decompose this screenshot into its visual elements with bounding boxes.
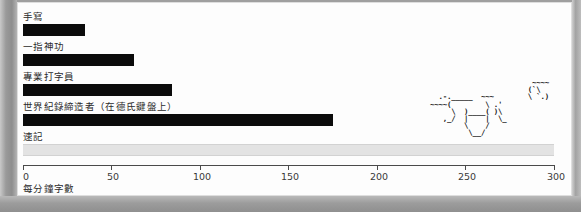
x-tick-label-100: 100	[193, 171, 211, 182]
x-tick-mark-150	[288, 165, 289, 170]
x-tick-mark-100	[200, 165, 201, 170]
x-tick-label-150: 150	[281, 171, 299, 182]
bar-group-2: 專業打字員	[23, 71, 172, 96]
bar-rect-1	[23, 54, 134, 66]
bar-rect-4	[23, 144, 554, 156]
x-tick-label-50: 50	[107, 171, 119, 182]
bar-label-1: 一指神功	[23, 41, 134, 53]
x-tick-mark-200	[377, 165, 378, 170]
bar-label-3: 世界紀錄締造者（在德氏鍵盤上）	[23, 101, 333, 113]
x-axis-title: 每分鐘字數	[23, 181, 75, 195]
bar-label-2: 專業打字員	[23, 71, 172, 83]
x-tick-mark-250	[465, 165, 466, 170]
bar-group-1: 一指神功	[23, 41, 134, 66]
x-tick-label-200: 200	[370, 171, 388, 182]
x-tick-mark-50	[111, 165, 112, 170]
bar-rect-3	[23, 114, 333, 126]
bar-rect-2	[23, 84, 172, 96]
x-tick-label-300: 300	[547, 171, 565, 182]
bar-label-0: 手寫	[23, 11, 85, 23]
x-tick-mark-0	[23, 165, 24, 170]
ascii-art-animal: ~~~~ (`\ .-._____ ~~~ \ `.) ~~~~( \ .' \…	[430, 79, 549, 137]
frame-left-band	[0, 0, 17, 212]
bar-group-3: 世界紀錄締造者（在德氏鍵盤上）	[23, 101, 333, 126]
scanned-page-frame: 手寫 一指神功 專業打字員 世界紀錄締造者（在德氏鍵盤上） 速記	[0, 0, 581, 212]
bar-group-0: 手寫	[23, 11, 85, 36]
frame-bottom-band	[0, 196, 581, 212]
bar-rect-0	[23, 24, 85, 36]
bar-chart-plot-area: 手寫 一指神功 專業打字員 世界紀錄締造者（在德氏鍵盤上） 速記	[18, 3, 572, 196]
frame-right-band	[572, 0, 581, 212]
x-axis: 0 50 100 150 200 250 300	[18, 165, 572, 195]
x-tick-mark-300	[554, 165, 555, 170]
x-tick-label-250: 250	[458, 171, 476, 182]
chart-page: 手寫 一指神功 專業打字員 世界紀錄締造者（在德氏鍵盤上） 速記	[17, 2, 572, 196]
